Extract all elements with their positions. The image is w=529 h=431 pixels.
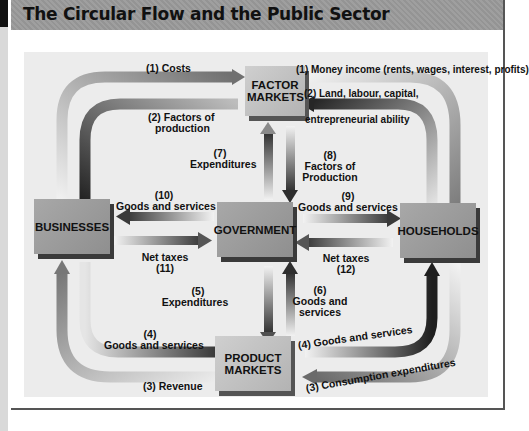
arrowhead-expenditures-7 [260,122,276,134]
businesses-box: BUSINESSES [34,199,110,254]
label-5-expenditures: Expenditures [160,297,230,309]
arrowhead-net-taxes-12 [295,234,309,251]
arrowhead-goods-services-to-households [424,262,440,276]
arrow-goods-services-10 [128,212,214,221]
label-6-services: services [290,307,350,319]
product-markets-label: PRODUCT MARKETS [220,352,286,376]
label-7-expenditures: Expenditures [190,159,250,171]
label-12-num: (12) [311,264,381,276]
arrowhead-costs [232,69,245,85]
label-9-goods-services: Goods and services [298,202,394,214]
government-label: GOVERNMENT [214,224,296,236]
businesses-label: BUSINESSES [35,221,109,233]
factor-markets-label: FACTOR MARKETS [247,79,303,103]
households-label: HOUSEHOLDS [397,225,478,237]
arrow-net-taxes-11 [114,236,200,245]
label-entrepreneurial-ability: entrepreneurial ability [305,114,409,126]
label-8-production: Production [300,172,360,184]
label-revenue: (3) Revenue [143,381,203,393]
arrow-expenditures-5 [264,266,273,334]
label-money-income: (1) Money income (rents, wages, interest… [296,64,529,76]
arrow-net-taxes-12 [307,238,393,247]
arrowhead-goods-services-6 [282,261,298,274]
government-box: GOVERNMENT [217,202,293,257]
product-markets-box: PRODUCT MARKETS [215,336,291,391]
arrowhead-revenue [54,260,70,274]
label-land-labour-capital: (2) Land, labour, capital, [304,88,418,100]
label-production: production [155,123,210,135]
arrow-factors-of-production-8 [286,126,295,192]
label-4-left-goods-services: Goods and services [104,340,204,352]
label-costs: (1) Costs [146,63,191,75]
arrow-goods-services-9 [303,214,389,223]
label-11-num: (11) [130,263,200,275]
label-10-goods-services: Goods and services [116,201,212,213]
arrowhead-net-taxes-11 [198,232,212,249]
households-box: HOUSEHOLDS [400,203,476,258]
arrow-expenditures-7 [264,132,273,200]
